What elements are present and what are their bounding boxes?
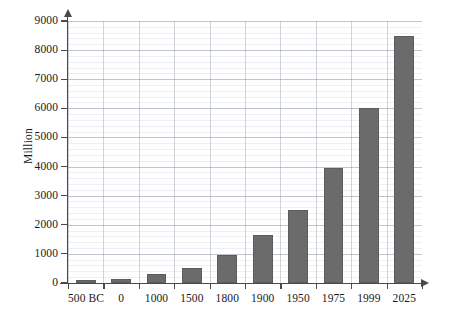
x-axis-tick-label: 1000	[139, 292, 174, 304]
y-axis-line	[67, 16, 68, 284]
x-axis-tick-label: 1900	[245, 292, 280, 304]
y-axis-tick	[61, 195, 68, 196]
x-axis-tick-label: 1800	[210, 292, 245, 304]
x-axis-tick	[210, 283, 211, 289]
x-axis-tick-label: 500 BC	[68, 292, 103, 304]
x-axis-tick	[387, 283, 388, 289]
plot-area	[68, 21, 422, 283]
y-axis-arrow-icon	[64, 9, 72, 17]
x-axis-tick	[103, 283, 104, 289]
y-axis-tick	[61, 20, 68, 21]
x-axis-tick	[422, 283, 423, 289]
x-axis-tick-label: 1500	[174, 292, 209, 304]
y-axis-tick-label: 8000	[35, 44, 58, 56]
x-axis-tick	[316, 283, 317, 289]
bar	[359, 108, 379, 283]
x-axis-tick-label: 1975	[316, 292, 351, 304]
y-axis-tick	[61, 137, 68, 138]
y-axis-tick-label: 1000	[35, 248, 58, 260]
y-axis-tick-label: 2000	[35, 219, 58, 231]
y-axis-tick	[61, 79, 68, 80]
y-axis-tick	[61, 224, 68, 225]
y-axis-tick-label: 4000	[35, 161, 58, 173]
x-axis-tick	[174, 283, 175, 289]
x-axis-line	[60, 283, 422, 284]
bar	[253, 235, 273, 283]
y-axis-tick	[61, 253, 68, 254]
bar	[182, 268, 202, 283]
x-axis-tick-label: 2025	[387, 292, 422, 304]
y-axis-tick-label: 7000	[35, 73, 58, 85]
y-axis-title: Million	[22, 106, 34, 186]
x-axis-tick-label: 1950	[280, 292, 315, 304]
y-axis-tick-label: 5000	[35, 131, 58, 143]
x-axis-tick	[280, 283, 281, 289]
x-axis-tick	[139, 283, 140, 289]
y-axis-tick	[61, 166, 68, 167]
bar	[217, 255, 237, 283]
bar	[394, 36, 414, 283]
bar	[324, 168, 344, 283]
bar-chart-figure: Million 01000200030004000500060007000800…	[0, 0, 450, 318]
y-axis-tick-label: 9000	[35, 15, 58, 27]
y-axis-tick	[61, 50, 68, 51]
y-axis-tick	[61, 108, 68, 109]
x-axis-tick	[245, 283, 246, 289]
y-axis-tick-label: 0	[52, 277, 58, 289]
x-axis-tick-label: 1999	[351, 292, 386, 304]
x-axis-tick	[351, 283, 352, 289]
bar	[288, 210, 308, 283]
y-axis-tick-label: 3000	[35, 190, 58, 202]
y-axis-tick-label: 6000	[35, 102, 58, 114]
x-axis-tick-label: 0	[103, 292, 138, 304]
y-axis-tick	[61, 282, 68, 283]
x-axis-tick	[68, 283, 69, 289]
